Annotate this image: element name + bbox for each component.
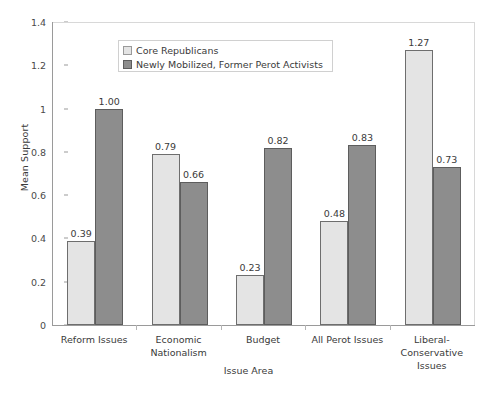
x-tick-mark (221, 325, 222, 330)
legend-swatch-icon (123, 60, 132, 69)
bar-value-label: 0.48 (324, 208, 345, 219)
legend-swatch-icon (123, 46, 132, 55)
x-category-label-line: Liberal- (382, 333, 482, 346)
x-tick-mark (390, 325, 391, 330)
y-tick-label: 0.4 (20, 233, 46, 244)
chart-legend: Core RepublicansNewly Mobilized, Former … (118, 40, 333, 72)
x-category-label-line: Nationalism (129, 346, 229, 359)
y-tick-label: 1.4 (20, 17, 46, 28)
bar-group: 0.391.00 (67, 22, 123, 325)
y-tick-label: 0.8 (20, 146, 46, 157)
bar-value-label: 0.73 (436, 154, 457, 165)
bar-perot-activists: 0.83 (348, 145, 376, 325)
bar-core-republicans: 0.39 (67, 241, 95, 325)
bar-perot-activists: 0.66 (180, 182, 208, 325)
legend-label: Core Republicans (136, 45, 218, 56)
bar-perot-activists: 1.00 (95, 109, 123, 325)
y-tick-label: 1 (20, 103, 46, 114)
y-tick-label: 0.6 (20, 190, 46, 201)
bar-value-label: 0.83 (352, 132, 373, 143)
y-tick-label: 0.2 (20, 276, 46, 287)
x-axis-title: Issue Area (0, 365, 497, 376)
bar-value-label: 0.82 (267, 135, 288, 146)
x-tick-mark (305, 325, 306, 330)
bar-value-label: 0.66 (183, 169, 204, 180)
bar-core-republicans: 0.79 (152, 154, 180, 325)
bar-value-label: 1.00 (99, 96, 120, 107)
y-axis-ticks: 1.41.210.80.60.40.20 (18, 0, 46, 394)
bar-core-republicans: 0.23 (236, 275, 264, 325)
bar-group: 1.270.73 (405, 22, 461, 325)
y-tick-label: 1.2 (20, 60, 46, 71)
legend-label: Newly Mobilized, Former Perot Activists (136, 59, 323, 70)
bar-chart: Mean Support 1.41.210.80.60.40.20 0.391.… (0, 0, 497, 394)
bar-value-label: 0.23 (239, 262, 260, 273)
bar-perot-activists: 0.82 (264, 148, 292, 325)
legend-item: Core Republicans (123, 43, 328, 57)
bar-perot-activists: 0.73 (433, 167, 461, 325)
x-category-label-line: Conservative (382, 346, 482, 359)
bar-value-label: 1.27 (408, 37, 429, 48)
y-tick-label: 0 (20, 320, 46, 331)
bar-value-label: 0.79 (155, 141, 176, 152)
bar-value-label: 0.39 (71, 228, 92, 239)
bar-core-republicans: 1.27 (405, 50, 433, 325)
x-tick-mark (136, 325, 137, 330)
bar-core-republicans: 0.48 (320, 221, 348, 325)
legend-item: Newly Mobilized, Former Perot Activists (123, 57, 328, 71)
